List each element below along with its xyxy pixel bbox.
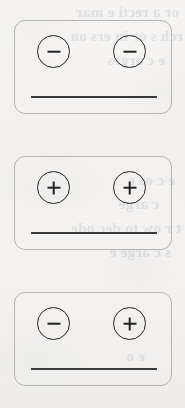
negative-negative-panel: [14, 20, 172, 114]
panel-inner: [15, 157, 171, 249]
charge-circle-minus: [37, 307, 70, 340]
charge-circle-minus: [37, 35, 70, 68]
baseline-rule: [31, 96, 157, 98]
panel-inner: [15, 21, 171, 113]
charge-circle-plus: [37, 171, 70, 204]
panel-inner: [15, 293, 171, 385]
positive-positive-panel: [14, 156, 172, 250]
baseline-rule: [31, 232, 157, 234]
charge-card-stack: [0, 0, 185, 408]
baseline-rule: [31, 368, 157, 370]
charge-circle-plus: [113, 307, 146, 340]
negative-positive-panel: [14, 292, 172, 386]
charge-circle-plus: [113, 171, 146, 204]
charge-circle-minus: [113, 35, 146, 68]
